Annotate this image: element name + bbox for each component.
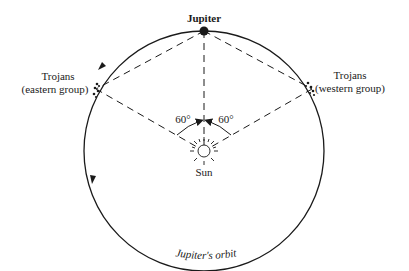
trojans-western-title: Trojans — [333, 69, 366, 81]
trojans-eastern-subtitle: (eastern group) — [22, 83, 89, 96]
trojans-eastern-title: Trojans — [41, 70, 74, 82]
orbit-direction-arrow-icon — [90, 175, 96, 184]
sun-label: Sun — [195, 166, 213, 178]
jupiter-planet — [200, 27, 209, 36]
trojan-asteroids-diagram: Jupiter Trojans (eastern group) Trojans … — [0, 0, 409, 271]
orbit-label: Jupiter's orbit — [175, 246, 238, 261]
angle-right-label: 60° — [218, 113, 233, 125]
angle-left-label: 60° — [175, 113, 190, 125]
jupiter-label: Jupiter — [187, 12, 221, 24]
dashed-geometry — [96, 31, 312, 151]
trojans-eastern-cluster — [93, 83, 100, 98]
orbit-direction-arrow-icon — [98, 62, 106, 70]
trojans-western-subtitle: (western group) — [315, 82, 385, 95]
